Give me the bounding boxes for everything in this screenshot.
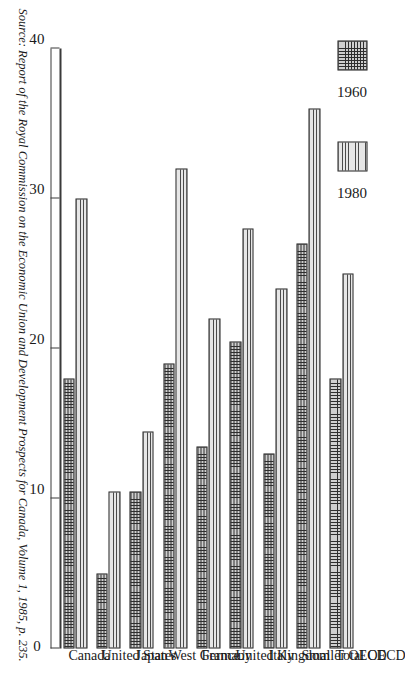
bar-1960-west-germany [163, 363, 175, 648]
bar-1980-total-oecd [342, 273, 354, 648]
bar-1980-west-germany [175, 168, 187, 648]
bar-1960-united-states [96, 573, 108, 648]
plot-area: 010203040 Total OECDSmaller OECDItalyUni… [59, 48, 359, 648]
category-label-canada: Canada [68, 648, 110, 662]
bar-1980-france [209, 318, 221, 648]
bar-1960-france [196, 446, 208, 649]
axis-tick-0 [50, 647, 59, 648]
category-label-united-states: United States [101, 648, 176, 662]
bar-1980-smaller-oecd [309, 108, 321, 648]
bar-1960-canada [63, 378, 75, 648]
bar-1960-italy [263, 453, 275, 648]
axis-tick-30 [50, 197, 59, 198]
category-label-west-germany: West Germany [168, 648, 251, 662]
bar-1960-united-kingdom [229, 341, 241, 649]
bar-1980-canada [75, 198, 87, 648]
axis-tick-20 [50, 347, 59, 348]
axis-tick-label-20: 20 [29, 331, 44, 346]
bar-1960-total-oecd [329, 378, 341, 648]
bar-1960-japan [129, 491, 141, 649]
axis-tick-label-30: 30 [29, 181, 44, 196]
bar-1980-united-kingdom [242, 228, 254, 648]
axis-tick-label-10: 10 [29, 481, 44, 496]
bar-1980-japan [142, 431, 154, 649]
axis-tick-40 [50, 47, 59, 48]
bar-1960-smaller-oecd [296, 243, 308, 648]
axis-tick-label-40: 40 [29, 31, 44, 46]
axis-tick-label-0: 0 [33, 639, 41, 654]
bar-1980-italy [275, 288, 287, 648]
bar-1980-united-states [109, 491, 121, 649]
axis-tick-10 [50, 497, 59, 498]
source-caption: Source: Report of the Royal Commission o… [14, 8, 29, 700]
